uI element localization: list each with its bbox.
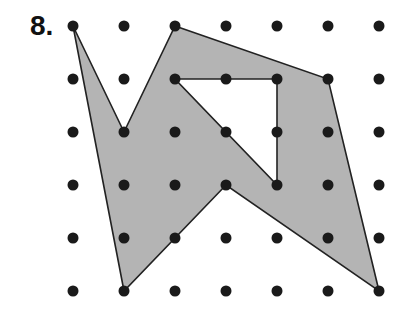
grid-dot — [68, 21, 79, 32]
grid-dot — [272, 233, 283, 244]
grid-dot — [374, 74, 385, 85]
grid-dot — [323, 74, 334, 85]
grid-dot — [68, 286, 79, 297]
grid-dot — [170, 286, 181, 297]
grid-dot — [170, 127, 181, 138]
grid-dot — [221, 180, 232, 191]
grid-dot — [272, 21, 283, 32]
grid-dot — [170, 233, 181, 244]
grid-dot — [272, 180, 283, 191]
grid-dot — [374, 286, 385, 297]
grid-dot — [221, 286, 232, 297]
grid-dot — [119, 180, 130, 191]
grid-dot — [221, 21, 232, 32]
grid-dot — [323, 233, 334, 244]
grid-dot — [68, 180, 79, 191]
shaded-polygon — [73, 26, 379, 291]
grid-dot — [374, 127, 385, 138]
grid-dot — [221, 127, 232, 138]
grid-dot — [68, 74, 79, 85]
grid-dot — [272, 286, 283, 297]
grid-dot — [323, 286, 334, 297]
grid-dot — [170, 180, 181, 191]
grid-dot — [272, 127, 283, 138]
grid-dot — [323, 180, 334, 191]
grid-dot — [221, 74, 232, 85]
grid-dot — [119, 21, 130, 32]
dot-grid-figure — [0, 0, 417, 322]
grid-dot — [170, 74, 181, 85]
grid-dot — [272, 74, 283, 85]
grid-dot — [68, 233, 79, 244]
grid-dot — [68, 127, 79, 138]
grid-dot — [170, 21, 181, 32]
grid-dot — [323, 21, 334, 32]
grid-dot — [119, 74, 130, 85]
grid-dot — [119, 286, 130, 297]
grid-dot — [119, 233, 130, 244]
grid-dot — [374, 180, 385, 191]
grid-dot — [323, 127, 334, 138]
grid-dot — [374, 21, 385, 32]
grid-dot — [374, 233, 385, 244]
grid-dot — [221, 233, 232, 244]
grid-dot — [119, 127, 130, 138]
